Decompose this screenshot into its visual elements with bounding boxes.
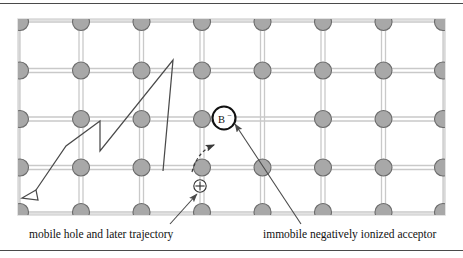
acceptor-ion: B − [213,107,236,130]
figure-container: B − mobile hole and later trajectory imm… [0,0,463,258]
acceptor-label: B [218,114,225,125]
caption-acceptor: immobile negatively ionized acceptor [263,228,436,240]
caption-mobile-hole: mobile hole and later trajectory [29,228,173,240]
lattice-diagram-svg: B − [0,0,463,258]
acceptor-charge: − [227,111,232,120]
mobile-hole-symbol [194,180,206,192]
